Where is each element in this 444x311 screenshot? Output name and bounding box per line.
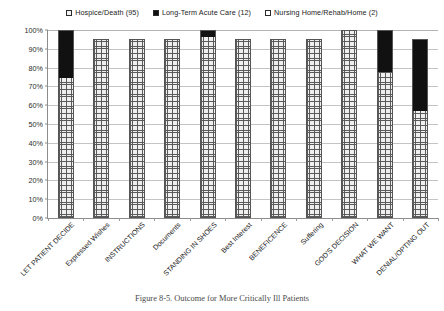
stacked-bar[interactable] — [235, 39, 251, 218]
x-axis-tick-label: Best Interest — [220, 221, 254, 255]
y-tick-label: 70% — [29, 82, 43, 91]
bar-segment — [378, 31, 392, 72]
bar-segment — [130, 40, 144, 217]
stacked-bar[interactable] — [129, 39, 145, 218]
bar-segment — [271, 40, 285, 217]
y-tick-label: 80% — [29, 63, 43, 72]
stacked-bar[interactable] — [58, 30, 74, 218]
y-tick-label: 50% — [29, 120, 43, 129]
bar-group[interactable] — [412, 30, 428, 218]
stacked-bar[interactable] — [377, 30, 393, 218]
bar-group[interactable] — [235, 30, 251, 218]
stacked-bar[interactable] — [341, 30, 357, 218]
x-axis-tick-label: BENEFICENCE — [248, 221, 289, 262]
legend-label-nursing-home: Nursing Home/Rehab/Home (2) — [274, 8, 378, 17]
bar-group[interactable] — [58, 30, 74, 218]
legend-item-hospice: Hospice/Death (95) — [66, 8, 139, 17]
hatched-square-icon — [66, 10, 72, 16]
bar-segment — [342, 31, 356, 217]
filled-black-square-icon — [153, 10, 159, 16]
x-axis-labels: LET PATIENT DECIDEExpressed WishesINSTRU… — [47, 219, 437, 287]
x-axis-tick-label: Suffering — [299, 221, 325, 247]
bar-group[interactable] — [270, 30, 286, 218]
bar-group[interactable] — [164, 30, 180, 218]
bar-group[interactable] — [129, 30, 145, 218]
bar-group[interactable] — [200, 30, 216, 218]
stacked-bar[interactable] — [306, 39, 322, 218]
x-axis-tick-label: LET PATIENT DECIDE — [20, 221, 77, 278]
bar-segment — [165, 40, 179, 217]
bar-segment — [59, 78, 73, 218]
y-tick-label: 100% — [25, 26, 43, 35]
plot-area: 0%10%20%30%40%50%60%70%80%90%100% — [47, 30, 438, 219]
legend-item-nursing-home: Nursing Home/Rehab/Home (2) — [265, 8, 378, 17]
y-tick-label: 90% — [29, 44, 43, 53]
figure-caption: Figure 8-5. Outcome for More Critically … — [0, 294, 444, 303]
bar-segment — [378, 72, 392, 217]
bar-group[interactable] — [306, 30, 322, 218]
chart-legend: Hospice/Death (95) Long-Term Acute Care … — [0, 8, 444, 17]
y-tick-label: 40% — [29, 138, 43, 147]
y-tick-label: 30% — [29, 157, 43, 166]
stacked-bar[interactable] — [270, 39, 286, 218]
stacked-bar[interactable] — [93, 39, 109, 218]
y-tick-label: 20% — [29, 176, 43, 185]
y-tick-label: 0% — [33, 214, 43, 223]
y-tick-label: 60% — [29, 101, 43, 110]
legend-label-hospice: Hospice/Death (95) — [75, 8, 139, 17]
bar-group[interactable] — [93, 30, 109, 218]
stacked-bar[interactable] — [412, 39, 428, 218]
bar-group[interactable] — [377, 30, 393, 218]
bar-segment — [201, 37, 215, 217]
figure-container: Hospice/Death (95) Long-Term Acute Care … — [0, 0, 444, 311]
legend-item-long-term-acute-care: Long-Term Acute Care (12) — [153, 8, 251, 17]
y-tick-label: 10% — [29, 195, 43, 204]
x-axis-tick-label: Documents — [152, 221, 183, 252]
bar-segment — [307, 40, 321, 217]
legend-label-long-term-acute-care: Long-Term Acute Care (12) — [162, 8, 251, 17]
bar-segment — [413, 111, 427, 217]
bar-segment — [59, 31, 73, 78]
bar-group[interactable] — [341, 30, 357, 218]
x-tick-mark — [438, 218, 439, 221]
stacked-bar[interactable] — [200, 30, 216, 218]
bar-series-group — [48, 30, 438, 218]
stacked-bar[interactable] — [164, 39, 180, 218]
bar-segment — [413, 40, 427, 111]
bar-segment — [236, 40, 250, 217]
bar-segment — [94, 40, 108, 217]
empty-square-icon — [265, 10, 271, 16]
